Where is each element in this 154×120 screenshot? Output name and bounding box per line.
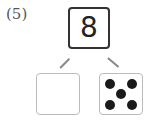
dot-icon: [105, 100, 115, 110]
dot-icon: [127, 100, 137, 110]
answer-box-empty[interactable]: [36, 73, 80, 115]
total-number: 8: [80, 14, 98, 42]
connector-line-right: [108, 57, 120, 67]
problem-number: (5): [6, 5, 27, 23]
connector-line-left: [59, 58, 69, 68]
total-number-box: 8: [68, 7, 110, 49]
dot-icon: [127, 79, 137, 89]
dot-icon: [105, 79, 115, 89]
dice-box-five: [99, 73, 143, 115]
dot-icon: [116, 89, 126, 99]
